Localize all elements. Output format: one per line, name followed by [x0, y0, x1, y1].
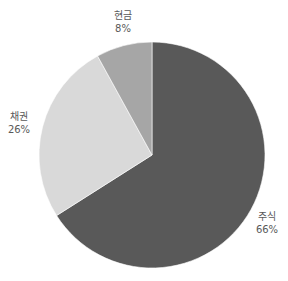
pie-chart — [0, 0, 288, 281]
label-bonds: 채권 26% — [4, 110, 34, 136]
label-stocks-name: 주식 — [250, 210, 284, 223]
label-cash-name: 현금 — [108, 9, 138, 22]
label-bonds-name: 채권 — [4, 110, 34, 123]
label-bonds-pct: 26% — [4, 123, 34, 136]
label-stocks: 주식 66% — [250, 210, 284, 236]
label-cash-pct: 8% — [108, 22, 138, 35]
label-stocks-pct: 66% — [250, 223, 284, 236]
label-cash: 현금 8% — [108, 9, 138, 35]
